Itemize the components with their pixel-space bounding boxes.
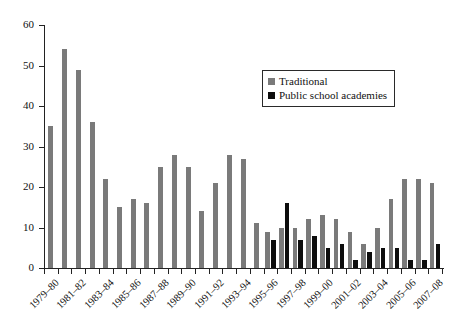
- y-axis-tick-label: 50: [8, 60, 34, 71]
- bar-traditional: [103, 179, 108, 268]
- x-axis-tick: [126, 269, 127, 274]
- x-axis-tick: [318, 269, 319, 274]
- bar-traditional: [76, 70, 81, 268]
- bar-traditional: [402, 179, 407, 268]
- x-axis-tick: [44, 269, 45, 274]
- x-axis-tick: [250, 269, 251, 274]
- x-axis-tick: [58, 269, 59, 274]
- y-axis-tick-label: 20: [8, 181, 34, 192]
- bar-traditional: [213, 183, 218, 268]
- bar-traditional: [306, 219, 311, 268]
- bar-traditional: [62, 49, 67, 268]
- x-axis-tick: [346, 269, 347, 274]
- bar-traditional: [265, 232, 270, 268]
- bar-traditional: [430, 183, 435, 268]
- bar-traditional: [254, 223, 259, 268]
- bar-traditional: [375, 228, 380, 269]
- x-axis-tick: [387, 269, 388, 274]
- x-axis-tick: [71, 269, 72, 274]
- x-axis-tick: [222, 269, 223, 274]
- bar-public-school-academies: [367, 252, 372, 268]
- x-axis-tick: [373, 269, 374, 274]
- x-axis-tick: [99, 269, 100, 274]
- plot-area: [44, 25, 442, 268]
- bar-traditional: [117, 207, 122, 268]
- bar-public-school-academies: [436, 244, 441, 268]
- bar-public-school-academies: [422, 260, 427, 268]
- x-axis-tick: [140, 269, 141, 274]
- bar-public-school-academies: [395, 248, 400, 268]
- x-axis-tick: [154, 269, 155, 274]
- bar-traditional: [348, 232, 353, 268]
- legend-swatch-academies-icon: [268, 92, 275, 99]
- bar-public-school-academies: [381, 248, 386, 268]
- bar-traditional: [293, 228, 298, 269]
- x-axis-tick: [195, 269, 196, 274]
- bar-traditional: [389, 199, 394, 268]
- bar-chart: 0102030405060 1979–801981–821983–841985–…: [0, 0, 449, 335]
- x-axis-tick: [415, 269, 416, 274]
- bar-traditional: [158, 167, 163, 268]
- y-axis-tick-label: 30: [8, 141, 34, 152]
- bar-traditional: [320, 215, 325, 268]
- bar-traditional: [172, 155, 177, 268]
- bar-public-school-academies: [271, 240, 276, 268]
- x-axis-tick: [277, 269, 278, 274]
- x-axis-tick: [113, 269, 114, 274]
- bar-public-school-academies: [285, 203, 290, 268]
- bar-traditional: [144, 203, 149, 268]
- bar-traditional: [48, 126, 53, 268]
- x-axis-tick: [236, 269, 237, 274]
- bar-traditional: [227, 155, 232, 268]
- bar-traditional: [361, 244, 366, 268]
- bar-public-school-academies: [340, 244, 345, 268]
- legend-label-public-school-academies: Public school academies: [279, 89, 387, 101]
- y-axis-tick-label: 10: [8, 222, 34, 233]
- legend-swatch-traditional-icon: [268, 78, 275, 85]
- bar-traditional: [241, 159, 246, 268]
- x-axis-tick: [291, 269, 292, 274]
- bar-public-school-academies: [298, 240, 303, 268]
- bar-traditional: [186, 167, 191, 268]
- x-axis-line: [44, 268, 444, 269]
- x-axis-tick: [332, 269, 333, 274]
- bar-traditional: [279, 228, 284, 269]
- y-axis-tick-label: 0: [8, 262, 34, 273]
- x-axis-tick: [264, 269, 265, 274]
- x-axis-tick: [181, 269, 182, 274]
- x-axis-tick: [305, 269, 306, 274]
- x-axis-tick: [85, 269, 86, 274]
- x-axis-tick: [209, 269, 210, 274]
- chart-legend: Traditional Public school academies: [262, 70, 395, 107]
- bar-public-school-academies: [408, 260, 413, 268]
- bar-traditional: [131, 199, 136, 268]
- legend-label-traditional: Traditional: [279, 75, 328, 87]
- bar-traditional: [334, 219, 339, 268]
- bar-traditional: [90, 122, 95, 268]
- x-axis-tick: [401, 269, 402, 274]
- x-axis-tick: [168, 269, 169, 274]
- x-axis-tick: [428, 269, 429, 274]
- x-axis-tick: [442, 269, 443, 274]
- bar-traditional: [416, 179, 421, 268]
- bar-public-school-academies: [353, 260, 358, 268]
- bar-public-school-academies: [312, 236, 317, 268]
- legend-item-public-school-academies: Public school academies: [268, 88, 387, 102]
- legend-item-traditional: Traditional: [268, 74, 387, 88]
- y-axis-tick-label: 60: [8, 19, 34, 30]
- y-axis-tick-label: 40: [8, 100, 34, 111]
- bar-traditional: [199, 211, 204, 268]
- bar-public-school-academies: [326, 248, 331, 268]
- x-axis-tick: [360, 269, 361, 274]
